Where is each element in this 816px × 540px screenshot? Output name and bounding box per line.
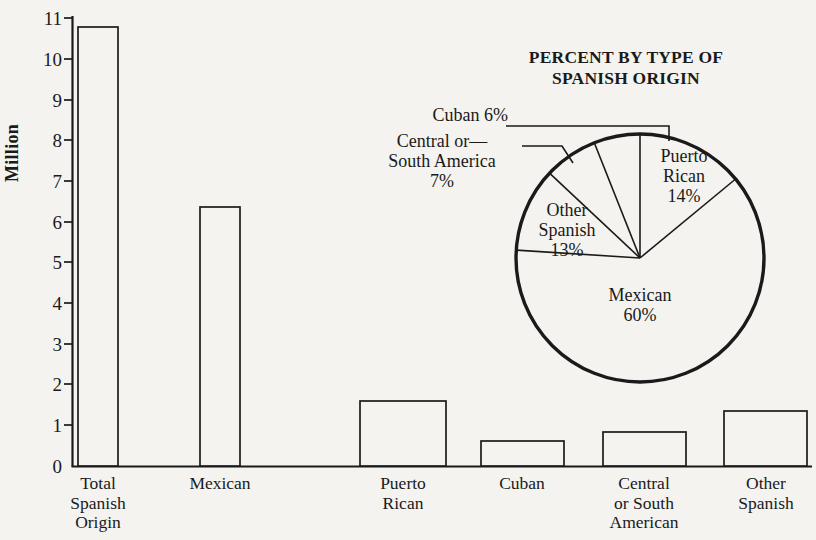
bar-central-or-south-american [603, 432, 686, 466]
bar-puerto-rican [360, 401, 446, 466]
x-tick-label-puerto-rican: Puerto Rican [353, 474, 453, 513]
pie-label-other-spanish: Other Spanish 13% [524, 200, 610, 260]
pie-label-mexican: Mexican 60% [578, 285, 702, 325]
bar-total-spanish-origin [78, 27, 118, 466]
bar-other-spanish [724, 411, 807, 466]
bar-mexican [200, 207, 240, 466]
x-tick-label-total-spanish-origin: Total Spanish Origin [48, 474, 148, 533]
pie-label-puerto-rican: Puerto Rican 14% [640, 146, 728, 206]
bar-cuban [481, 441, 564, 466]
x-tick-label-cuban: Cuban [472, 474, 572, 494]
x-tick-label-other-spanish: Other Spanish [716, 474, 816, 513]
pie-label-central-or-south-america: Central or— South America 7% [362, 131, 522, 191]
pie-chart-title: PERCENT BY TYPE OF SPANISH ORIGIN [480, 47, 772, 89]
x-tick-label-mexican: Mexican [170, 474, 270, 494]
chart-figure: Million 11 10 9 8 7 6 5 4 3 2 1 0 [0, 0, 816, 540]
pie-label-cuban: Cuban 6% [336, 105, 508, 125]
x-tick-label-central-or-south-american: Central or South American [594, 474, 694, 533]
